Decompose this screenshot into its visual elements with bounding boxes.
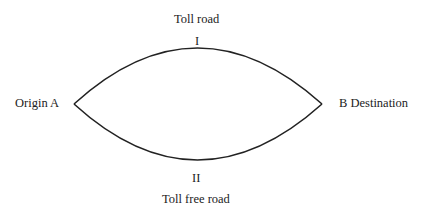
destination-label: B Destination xyxy=(339,97,408,110)
toll-road-label: Toll road xyxy=(174,13,219,26)
route-ii-numeral: II xyxy=(192,172,200,185)
route-i-numeral: I xyxy=(195,35,199,48)
toll-free-road-label: Toll free road xyxy=(162,193,230,206)
toll-free-road-curve xyxy=(74,104,322,160)
toll-road-curve xyxy=(74,48,322,104)
origin-label: Origin A xyxy=(15,97,59,110)
